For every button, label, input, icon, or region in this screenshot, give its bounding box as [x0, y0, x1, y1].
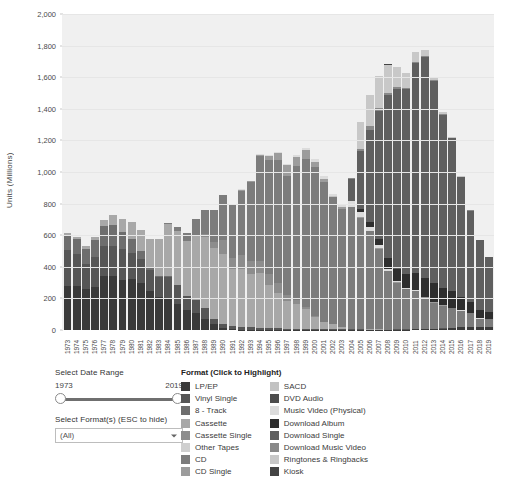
bar-segment[interactable]: [210, 210, 218, 243]
bar-segment[interactable]: [201, 210, 209, 234]
bar-segment[interactable]: [485, 319, 493, 326]
bar-segment[interactable]: [274, 153, 282, 160]
bar-segment[interactable]: [219, 328, 227, 330]
bar-segment[interactable]: [119, 249, 127, 280]
bar-segment[interactable]: [283, 301, 291, 328]
bar-segment[interactable]: [265, 160, 273, 274]
bar-segment[interactable]: [393, 283, 401, 330]
bar-segment[interactable]: [439, 306, 447, 329]
bar-segment[interactable]: [375, 111, 383, 239]
bar-segment[interactable]: [448, 308, 456, 327]
bar-segment[interactable]: [201, 308, 209, 318]
bar-segment[interactable]: [155, 239, 163, 276]
bar-segment[interactable]: [357, 122, 365, 149]
bar-segment[interactable]: [210, 324, 218, 330]
bar-segment[interactable]: [210, 248, 218, 318]
bar-segment[interactable]: [393, 269, 401, 281]
bar-segment[interactable]: [476, 319, 484, 327]
bar-segment[interactable]: [100, 246, 108, 276]
bar-segment[interactable]: [439, 288, 447, 305]
legend-item[interactable]: Ringtones & Ringbacks: [270, 455, 368, 464]
legend-item[interactable]: 8 - Track: [181, 406, 252, 415]
bar-segment[interactable]: [201, 319, 209, 330]
bar-segment[interactable]: [476, 310, 484, 318]
bar-segment[interactable]: [402, 274, 410, 288]
bar-segment[interactable]: [155, 277, 163, 297]
bar-segment[interactable]: [421, 298, 429, 329]
bar-segment[interactable]: [64, 235, 72, 249]
bar-segment[interactable]: [412, 273, 420, 289]
bar-segment[interactable]: [155, 297, 163, 330]
bar-segment[interactable]: [476, 240, 484, 310]
bar-segment[interactable]: [192, 313, 200, 330]
bar-segment[interactable]: [73, 254, 81, 286]
legend-item[interactable]: Vinyl Single: [181, 394, 252, 403]
date-range-slider[interactable]: [55, 392, 183, 406]
bar-segment[interactable]: [128, 222, 136, 239]
bar-segment[interactable]: [402, 89, 410, 274]
legend-item[interactable]: Cassette: [181, 419, 252, 428]
bar-segment[interactable]: [219, 240, 227, 254]
bar-segment[interactable]: [412, 52, 420, 61]
bar-segment[interactable]: [91, 287, 99, 330]
bar-segment[interactable]: [164, 277, 172, 298]
bar-segment[interactable]: [192, 219, 200, 235]
bar-segment[interactable]: [467, 211, 475, 303]
bar-segment[interactable]: [412, 329, 420, 330]
bar-segment[interactable]: [229, 329, 237, 330]
bar-segment[interactable]: [137, 251, 145, 259]
bar-segment[interactable]: [183, 233, 191, 241]
bar-segment[interactable]: [393, 89, 401, 269]
legend-item[interactable]: DVD Audio: [270, 394, 368, 403]
bar-segment[interactable]: [274, 283, 282, 292]
legend-item[interactable]: Other Tapes: [181, 443, 252, 452]
slider-handle-min[interactable]: [55, 393, 66, 404]
legend-item[interactable]: Download Album: [270, 419, 368, 428]
bar-segment[interactable]: [82, 289, 90, 330]
legend-item[interactable]: SACD: [270, 382, 368, 391]
bar-segment[interactable]: [485, 312, 493, 319]
bar-segment[interactable]: [375, 239, 383, 246]
bar-segment[interactable]: [457, 177, 465, 296]
bar-segment[interactable]: [476, 327, 484, 330]
bar-segment[interactable]: [448, 328, 456, 330]
bar-segment[interactable]: [384, 95, 392, 258]
bar-segment[interactable]: [457, 327, 465, 330]
legend-item[interactable]: Cassette Single: [181, 431, 252, 440]
bar-segment[interactable]: [402, 289, 410, 329]
bar-segment[interactable]: [146, 270, 154, 292]
bar-segment[interactable]: [293, 157, 301, 166]
bar-segment[interactable]: [283, 165, 291, 176]
bar-segment[interactable]: [375, 76, 383, 108]
bar-segment[interactable]: [100, 276, 108, 330]
bar-segment[interactable]: [137, 259, 145, 283]
bar-segment[interactable]: [174, 285, 182, 304]
bar-segment[interactable]: [109, 246, 117, 276]
bar-segment[interactable]: [82, 249, 90, 264]
bar-segment[interactable]: [467, 327, 475, 330]
bar-segment[interactable]: [137, 283, 145, 330]
bar-segment[interactable]: [430, 329, 438, 330]
bar-segment[interactable]: [485, 327, 493, 330]
bar-segment[interactable]: [183, 310, 191, 330]
bar-segment[interactable]: [293, 166, 301, 300]
bar-segment[interactable]: [302, 309, 310, 329]
slider-track[interactable]: [61, 398, 177, 401]
bar-segment[interactable]: [467, 313, 475, 327]
bar-segment[interactable]: [366, 231, 374, 329]
bar-segment[interactable]: [247, 274, 255, 328]
bar-segment[interactable]: [238, 191, 246, 255]
legend-item[interactable]: Music Video (Physical): [270, 406, 368, 415]
bar-segment[interactable]: [348, 207, 356, 328]
legend-item[interactable]: LP/EP: [181, 382, 252, 391]
bar-segment[interactable]: [421, 57, 429, 278]
bar-segment[interactable]: [402, 73, 410, 87]
bar-segment[interactable]: [183, 241, 191, 296]
legend-item[interactable]: Kiosk: [270, 467, 368, 476]
bar-segment[interactable]: [229, 269, 237, 326]
bar-segment[interactable]: [137, 230, 145, 252]
bar-segment[interactable]: [64, 286, 72, 330]
bar-segment[interactable]: [247, 182, 255, 260]
bar-segment[interactable]: [174, 231, 182, 285]
bar-segment[interactable]: [430, 303, 438, 329]
